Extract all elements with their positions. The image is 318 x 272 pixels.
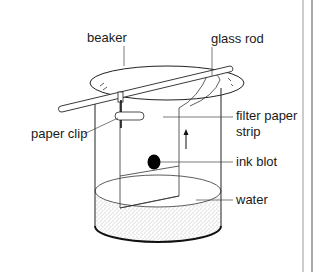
water-body [95,175,221,242]
label-beaker: beaker [87,30,127,45]
page-border [303,0,312,272]
glass-rod [58,66,232,112]
solvent-direction-arrow [184,129,189,149]
label-paper-clip: paper clip [31,126,87,141]
chromatography-diagram: beaker glass rod paper clip filter paper… [0,0,318,272]
label-glass-rod: glass rod [211,31,264,46]
ink-blot [148,155,161,170]
label-filter-paper-strip-line2: strip [236,124,261,139]
label-water: water [235,192,268,207]
label-filter-paper-strip-line1: filter paper [236,108,298,123]
label-ink-blot: ink blot [236,154,278,169]
